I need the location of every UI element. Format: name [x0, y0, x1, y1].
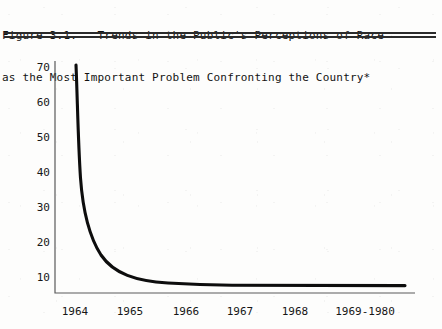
ytick-label: 60: [16, 97, 50, 108]
line-chart: 70 60 50 40 30 20 10 1964 1965 1966 1967…: [0, 0, 442, 329]
ytick-label: 30: [16, 202, 50, 213]
series-race-most-important-problem: [76, 65, 405, 286]
ytick-label: 20: [16, 237, 50, 248]
xtick-label: 1967: [214, 306, 266, 317]
xtick-label: 1968: [269, 306, 321, 317]
ytick-label: 70: [16, 62, 50, 73]
chart-series-group: [0, 0, 442, 329]
xtick-label: 1969-1980: [322, 306, 408, 317]
ytick-label: 40: [16, 167, 50, 178]
ytick-label: 10: [16, 272, 50, 283]
xtick-label: 1966: [160, 306, 212, 317]
xtick-label: 1964: [49, 306, 101, 317]
ytick-label: 50: [16, 132, 50, 143]
figure-page: Figure 3.1. Trends in the Public's Perce…: [0, 0, 442, 329]
xtick-label: 1965: [104, 306, 156, 317]
